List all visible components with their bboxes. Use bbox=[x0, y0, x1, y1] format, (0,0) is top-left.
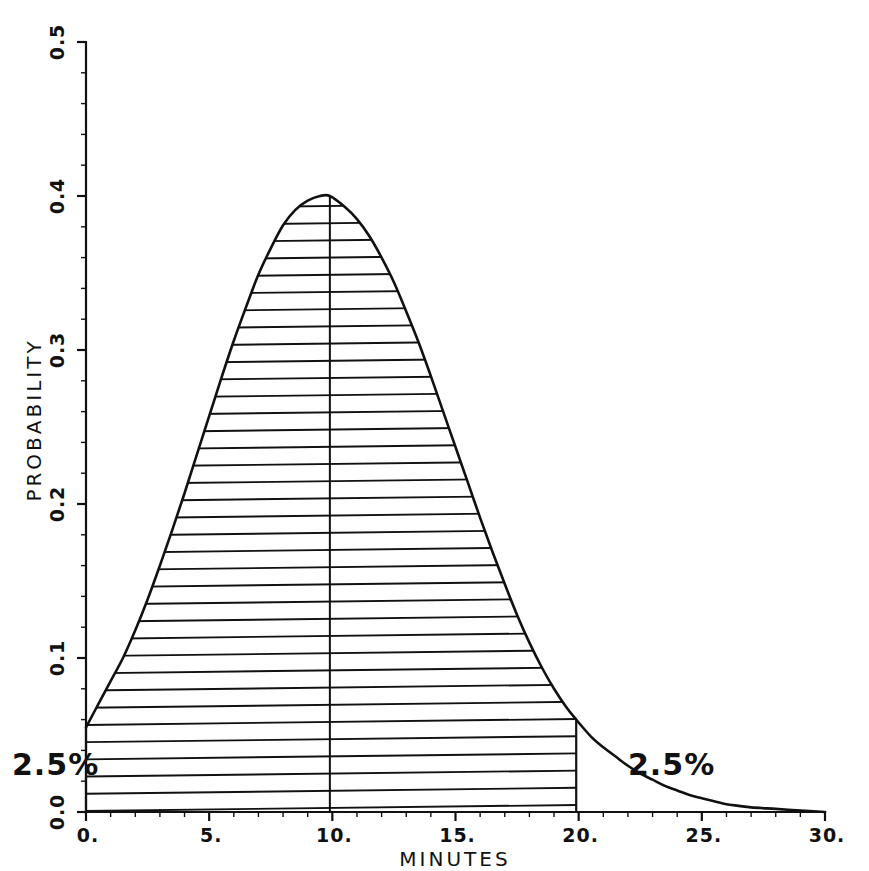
hatch-line bbox=[82, 80, 825, 89]
hatch-line bbox=[82, 785, 825, 794]
hatch-line bbox=[82, 286, 825, 295]
hatch-line bbox=[82, 492, 825, 501]
y-axis-major-ticks bbox=[77, 42, 86, 812]
hatch-line bbox=[82, 372, 825, 381]
left-tail-percent-label: 2.5% bbox=[12, 747, 99, 782]
y-tick-label: 0.2 bbox=[46, 486, 68, 523]
hatch-line bbox=[82, 97, 825, 106]
hatch-line bbox=[82, 166, 825, 175]
hatch-line bbox=[82, 62, 825, 71]
hatch-line bbox=[82, 424, 825, 433]
hatch-line bbox=[82, 544, 825, 553]
hatch-line bbox=[82, 510, 825, 519]
hatch-line bbox=[82, 320, 825, 329]
hatch-line bbox=[82, 630, 825, 639]
probability-distribution-chart: 0.00.10.20.30.40.5 0.5.10.15.20.25.30. P… bbox=[0, 0, 869, 871]
y-tick-label: 0.5 bbox=[46, 24, 68, 61]
hatch-line bbox=[82, 406, 825, 415]
y-tick-label: 0.0 bbox=[46, 794, 68, 831]
x-tick-label: 10. bbox=[316, 824, 353, 846]
hatch-line bbox=[82, 475, 825, 484]
x-tick-label: 20. bbox=[562, 824, 599, 846]
hatch-line bbox=[82, 338, 825, 347]
x-tick-label: 5. bbox=[200, 824, 222, 846]
hatch-line bbox=[82, 716, 825, 725]
y-axis-title: PROBABILITY bbox=[22, 338, 46, 501]
hatch-line bbox=[82, 217, 825, 226]
hatch-line bbox=[82, 389, 825, 398]
hatch-line bbox=[82, 234, 825, 243]
hatch-line bbox=[82, 647, 825, 656]
x-tick-label: 0. bbox=[77, 824, 99, 846]
hatch-line bbox=[82, 802, 825, 811]
density-curve bbox=[86, 195, 825, 812]
hatch-line bbox=[82, 252, 825, 261]
hatch-line bbox=[82, 355, 825, 364]
hatch-line bbox=[82, 613, 825, 622]
x-tick-label: 15. bbox=[439, 824, 476, 846]
hatch-line bbox=[82, 114, 825, 123]
x-axis-major-ticks bbox=[86, 812, 825, 821]
hatch-line bbox=[82, 131, 825, 140]
hatch-line bbox=[82, 200, 825, 209]
hatch-line bbox=[82, 596, 825, 605]
hatch-line bbox=[82, 578, 825, 587]
hatch-line bbox=[82, 45, 825, 54]
hatch-line bbox=[82, 183, 825, 192]
y-tick-label: 0.1 bbox=[46, 640, 68, 677]
x-tick-label: 30. bbox=[809, 824, 846, 846]
right-tail-percent-label: 2.5% bbox=[628, 747, 715, 782]
y-tick-label: 0.3 bbox=[46, 332, 68, 369]
hatch-line bbox=[82, 664, 825, 673]
hatch-line bbox=[82, 527, 825, 536]
chart-figure: 0.00.10.20.30.40.5 0.5.10.15.20.25.30. P… bbox=[0, 0, 869, 871]
x-axis-title: MINUTES bbox=[399, 847, 510, 871]
hatched-area bbox=[82, 45, 825, 811]
hatch-line bbox=[82, 561, 825, 570]
hatch-line bbox=[82, 733, 825, 742]
x-tick-label: 25. bbox=[685, 824, 722, 846]
hatch-line bbox=[82, 699, 825, 708]
y-tick-label: 0.4 bbox=[46, 178, 68, 215]
hatch-line bbox=[82, 148, 825, 157]
hatch-line bbox=[82, 682, 825, 691]
x-tick-labels: 0.5.10.15.20.25.30. bbox=[77, 824, 846, 846]
hatch-line bbox=[82, 269, 825, 278]
y-tick-labels: 0.00.10.20.30.40.5 bbox=[46, 24, 68, 831]
hatch-line bbox=[82, 303, 825, 312]
